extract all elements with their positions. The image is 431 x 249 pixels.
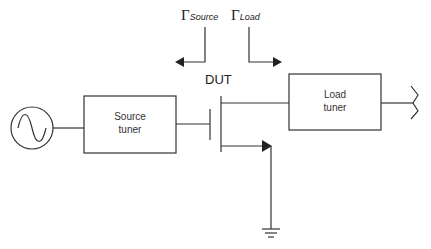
gamma-symbol: Γ <box>231 7 240 23</box>
gamma-load-arrowhead-icon <box>273 57 282 67</box>
source-tuner-line2: tuner <box>84 123 176 136</box>
dut-label: DUT <box>205 72 232 87</box>
source-tuner-label: Source tuner <box>84 110 176 136</box>
gamma-load-label: ΓLoad <box>231 6 260 24</box>
gamma-source-label: ΓSource <box>181 6 218 24</box>
gamma-source-arrowhead-icon <box>175 57 184 67</box>
load-tuner-line1: Load <box>289 88 381 101</box>
gamma-source-subscript: Source <box>190 12 219 22</box>
gamma-symbol: Γ <box>181 7 190 23</box>
load-tuner-line2: tuner <box>289 101 381 114</box>
gamma-source-arrow-line <box>183 27 205 62</box>
gamma-load-arrow-line <box>249 27 274 62</box>
ground-icon <box>262 229 280 237</box>
load-tuner-label: Load tuner <box>289 88 381 114</box>
load-pull-diagram <box>0 0 431 249</box>
gamma-load-subscript: Load <box>240 12 260 22</box>
source-tuner-line1: Source <box>84 110 176 123</box>
ac-source-icon <box>11 107 53 149</box>
